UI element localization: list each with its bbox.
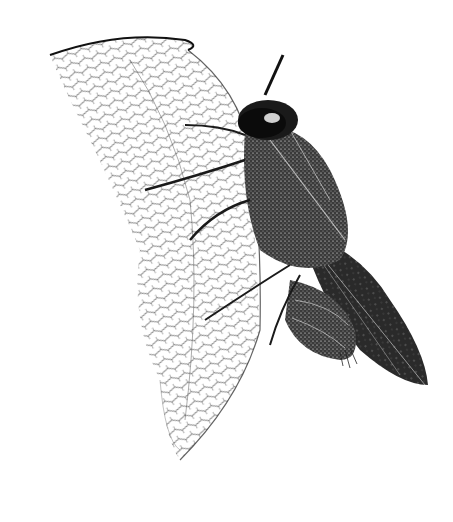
illustration-canvas xyxy=(0,0,453,522)
thorax xyxy=(244,127,348,268)
fly-on-leaf-illustration xyxy=(0,0,453,522)
leaf xyxy=(50,37,260,460)
compound-eye xyxy=(238,108,286,138)
antenna xyxy=(265,55,283,95)
